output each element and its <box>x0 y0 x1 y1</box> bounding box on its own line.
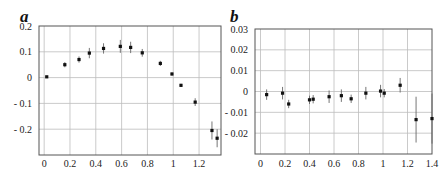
y-tick-label: 0.03 <box>231 24 249 35</box>
chart-b: b00.20.40.60.811.21.40.030.020.010- 0.01… <box>225 7 439 169</box>
data-point <box>119 45 122 48</box>
data-point <box>379 89 382 92</box>
data-point <box>287 102 290 105</box>
data-point <box>328 95 331 98</box>
data-point <box>141 51 144 54</box>
data-point <box>102 47 105 50</box>
data-point <box>216 137 219 140</box>
figure: a00.20.40.60.811.20.20.10- 0.1- 0.2 b00.… <box>0 0 444 173</box>
data-point <box>350 97 353 100</box>
x-tick-label: 1.2 <box>193 158 206 169</box>
data-point <box>430 117 433 120</box>
x-tick-label: 0.4 <box>303 158 316 169</box>
data-point <box>77 58 80 61</box>
x-tick-label: 0 <box>258 158 263 169</box>
y-tick-label: 0.1 <box>20 46 33 57</box>
data-point <box>159 62 162 65</box>
y-tick-label: 0.01 <box>231 65 249 76</box>
data-point <box>179 84 182 87</box>
y-tick-label: 0 <box>27 72 32 83</box>
plot-frame <box>39 26 221 155</box>
data-point <box>414 118 417 121</box>
x-tick-label: 0.6 <box>328 158 341 169</box>
data-point <box>340 94 343 97</box>
x-tick-label: 1 <box>171 158 176 169</box>
x-tick-label: 0.4 <box>90 158 103 169</box>
data-point <box>194 101 197 104</box>
chart-a: a00.20.40.60.811.20.20.10- 0.1- 0.2 <box>14 7 221 169</box>
y-tick-label: - 0.1 <box>14 98 32 109</box>
data-point <box>281 92 284 95</box>
x-tick-label: 0.8 <box>141 158 154 169</box>
data-point <box>170 72 173 75</box>
data-point <box>383 92 386 95</box>
x-tick-label: 0.2 <box>279 158 292 169</box>
data-point <box>364 92 367 95</box>
x-tick-label: 1 <box>381 158 386 169</box>
y-tick-label: - 0.2 <box>14 124 32 135</box>
data-point <box>210 129 213 132</box>
y-tick-label: - 0.01 <box>225 107 248 118</box>
y-tick-label: 0 <box>243 86 248 97</box>
data-point <box>265 93 268 96</box>
data-point <box>308 98 311 101</box>
data-point <box>312 98 315 101</box>
x-tick-label: 0.6 <box>115 158 128 169</box>
data-point <box>399 84 402 87</box>
y-tick-label: - 0.02 <box>225 128 248 139</box>
x-tick-label: 1.2 <box>401 158 414 169</box>
y-tick-label: 0.2 <box>20 21 33 32</box>
data-point <box>88 51 91 54</box>
x-tick-label: 0.8 <box>352 158 365 169</box>
data-point <box>45 75 48 78</box>
data-point <box>63 63 66 66</box>
x-tick-label: 1.4 <box>426 158 439 169</box>
y-tick-label: 0.02 <box>231 44 249 55</box>
x-tick-label: 0 <box>42 158 47 169</box>
data-point <box>129 46 132 49</box>
x-tick-label: 0.2 <box>64 158 77 169</box>
